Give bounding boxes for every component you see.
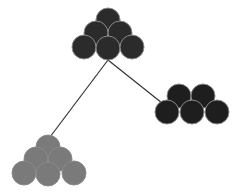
edge-root-to-right-child <box>108 60 162 103</box>
circle-node <box>36 162 60 186</box>
circle-node <box>120 35 144 59</box>
circle-node <box>72 35 96 59</box>
edges-group <box>50 60 162 137</box>
circle-node <box>205 100 229 124</box>
node-cluster-root <box>72 8 144 60</box>
clusters-group <box>12 8 229 186</box>
circle-node <box>96 36 120 60</box>
tree-diagram <box>0 0 240 196</box>
node-cluster-left-child <box>12 135 86 186</box>
circle-node <box>62 161 86 185</box>
edge-root-to-left-child <box>50 60 108 137</box>
circle-node <box>180 100 204 124</box>
circle-node <box>12 161 36 185</box>
circle-node <box>155 100 179 124</box>
node-cluster-right-child <box>155 84 229 124</box>
